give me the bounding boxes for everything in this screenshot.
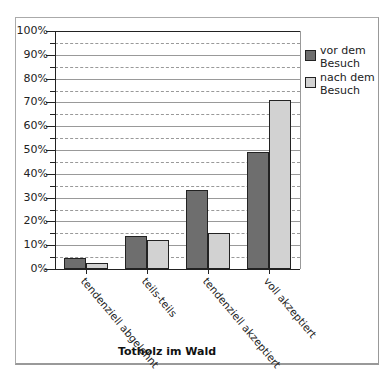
bar-after xyxy=(147,240,169,269)
y-tick-label: 0% xyxy=(8,262,48,275)
plot-right-border xyxy=(300,31,301,269)
x-tick xyxy=(147,269,148,274)
y-tick-label: 60% xyxy=(8,119,48,132)
x-tick xyxy=(269,269,270,274)
bar-after xyxy=(208,233,230,269)
bar-before xyxy=(247,152,269,269)
gridline xyxy=(55,79,300,80)
gridline xyxy=(55,126,300,127)
y-tick-label: 10% xyxy=(8,238,48,251)
y-tick xyxy=(46,102,55,103)
minor-gridline xyxy=(55,138,300,139)
y-tick-label: 40% xyxy=(8,167,48,180)
bar-before xyxy=(125,236,147,269)
y-tick-label: 20% xyxy=(8,214,48,227)
x-tick xyxy=(86,269,87,274)
x-axis xyxy=(45,269,300,270)
legend-label: nach dem Besuch xyxy=(320,71,375,97)
x-tick xyxy=(208,269,209,274)
gridline xyxy=(55,150,300,151)
bar-before xyxy=(64,258,86,269)
y-tick xyxy=(46,245,55,246)
y-tick xyxy=(46,150,55,151)
y-tick xyxy=(46,79,55,80)
minor-gridline xyxy=(55,43,300,44)
chart: Totholz im Wald 0%10%20%30%40%50%60%70%8… xyxy=(0,0,383,376)
gridline xyxy=(55,55,300,56)
gridline xyxy=(55,31,300,32)
y-tick xyxy=(46,174,55,175)
minor-gridline xyxy=(55,67,300,68)
minor-gridline xyxy=(55,91,300,92)
bar-after xyxy=(86,263,108,269)
legend-label: vor dem Besuch xyxy=(320,44,366,70)
bar-before xyxy=(186,190,208,269)
y-tick xyxy=(46,31,55,32)
legend-swatch xyxy=(305,77,316,88)
y-tick-label: 50% xyxy=(8,143,48,156)
y-tick-label: 70% xyxy=(8,95,48,108)
y-tick xyxy=(46,55,55,56)
y-tick xyxy=(46,198,55,199)
y-tick-label: 100% xyxy=(8,24,48,37)
y-tick xyxy=(46,221,55,222)
gridline xyxy=(55,102,300,103)
bar-after xyxy=(269,100,291,269)
y-tick-label: 90% xyxy=(8,48,48,61)
minor-gridline xyxy=(55,114,300,115)
y-tick-label: 30% xyxy=(8,191,48,204)
y-axis xyxy=(55,31,56,269)
legend-swatch xyxy=(305,50,316,61)
y-tick xyxy=(46,126,55,127)
y-tick-label: 80% xyxy=(8,72,48,85)
